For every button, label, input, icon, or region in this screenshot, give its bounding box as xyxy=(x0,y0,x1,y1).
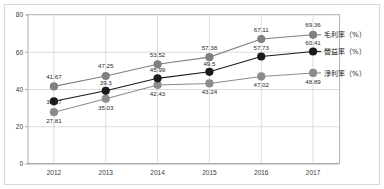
series-line xyxy=(54,51,313,101)
data-label: 67.11 xyxy=(254,26,270,33)
data-label: 53.52 xyxy=(150,51,166,58)
data-labels-group: 41.6747.2553.5257.3867.1169.3633.6739.34… xyxy=(46,21,321,124)
data-point xyxy=(309,47,317,55)
data-label: 45.99 xyxy=(150,66,166,73)
data-label: 48.89 xyxy=(305,78,321,85)
legend: 毛利率（%）營益率（%）淨利率（%） xyxy=(317,30,366,77)
data-label: 69.36 xyxy=(305,21,321,28)
data-label: 41.67 xyxy=(46,73,62,80)
data-point xyxy=(257,52,265,60)
series-line xyxy=(54,35,313,87)
data-point xyxy=(309,69,317,77)
y-tick-label: 40 xyxy=(16,86,24,93)
data-point xyxy=(205,68,213,76)
data-point xyxy=(102,95,110,103)
x-gridlines xyxy=(54,14,313,164)
data-label: 47.02 xyxy=(254,81,270,88)
y-tick-label: 60 xyxy=(16,49,24,56)
x-axis-ticks: 201220132014201520162017 xyxy=(47,169,321,176)
data-point xyxy=(309,31,317,39)
data-label: 60.41 xyxy=(305,39,321,46)
x-tick-label: 2013 xyxy=(99,169,114,176)
y-axis-ticks: 020406080 xyxy=(16,11,28,167)
data-point xyxy=(205,79,213,87)
data-label: 47.25 xyxy=(98,62,114,69)
data-label: 43.24 xyxy=(202,88,218,95)
data-label: 49.5 xyxy=(203,60,216,67)
x-tick-label: 2016 xyxy=(254,169,269,176)
chart-root: 020406080 201220132014201520162017 41.67… xyxy=(0,0,384,189)
data-label: 33.67 xyxy=(46,98,62,105)
gridlines xyxy=(28,15,339,164)
data-point xyxy=(153,74,161,82)
data-label: 35.03 xyxy=(98,104,114,111)
x-tick-label: 2015 xyxy=(202,169,217,176)
x-tick-label: 2014 xyxy=(150,169,165,176)
line-chart: 020406080 201220132014201520162017 41.67… xyxy=(0,0,384,189)
data-label: 39.3 xyxy=(100,79,113,86)
data-point xyxy=(257,35,265,43)
data-point xyxy=(257,72,265,80)
data-series-group xyxy=(50,31,317,117)
data-label: 57.38 xyxy=(202,44,218,51)
y-tick-label: 80 xyxy=(16,11,24,18)
x-tick-label: 2017 xyxy=(306,169,321,176)
data-label: 57.73 xyxy=(254,44,270,51)
y-tick-label: 20 xyxy=(16,123,24,130)
data-point xyxy=(50,108,58,116)
legend-label: 毛利率（%） xyxy=(324,30,366,39)
data-point xyxy=(50,82,58,90)
legend-label: 淨利率（%） xyxy=(324,69,366,78)
legend-label: 營益率（%） xyxy=(324,47,366,56)
x-tick-label: 2012 xyxy=(47,169,62,176)
data-label: 42.43 xyxy=(150,90,166,97)
data-label: 27.81 xyxy=(46,117,62,124)
data-point xyxy=(102,87,110,95)
y-tick-label: 0 xyxy=(19,160,23,167)
